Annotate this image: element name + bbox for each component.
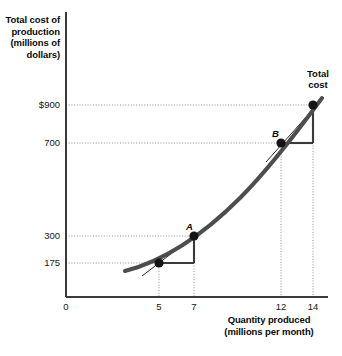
y-tick-label-300: 300 xyxy=(16,230,60,241)
cost-curve-figure: Total cost of production (millions of do… xyxy=(0,0,342,356)
x-tick-label-14: 14 xyxy=(300,301,326,312)
total-cost-curve xyxy=(125,98,322,271)
y-tick-label-175: 175 xyxy=(16,257,60,268)
x-axis-title-line-1: Quantity produced xyxy=(196,314,342,326)
x-tick-label-5: 5 xyxy=(146,301,172,312)
y-axis-title-line-2: production xyxy=(0,26,60,38)
point-label-a: A xyxy=(186,221,193,232)
y-tick-label-700: 700 xyxy=(16,137,60,148)
y-axis-title-line-4: dollars) xyxy=(0,49,60,61)
x-axis-title: Quantity produced (millions per month) xyxy=(196,314,342,337)
curve-label-line-1: Total xyxy=(296,68,340,79)
x-axis-title-line-2: (millions per month) xyxy=(196,326,342,338)
x-tick-label-12: 12 xyxy=(268,301,294,312)
data-points xyxy=(154,100,317,267)
x-tick-label-7: 7 xyxy=(181,301,207,312)
point-b xyxy=(276,138,285,147)
curve-label-total-cost: Total cost xyxy=(296,68,340,90)
point-a xyxy=(189,231,198,240)
x-tick-label-0: 0 xyxy=(53,301,79,312)
y-tick-label-900: $900 xyxy=(16,99,60,110)
y-axis-title-line-1: Total cost of xyxy=(0,14,60,26)
y-axis-title-line-3: (millions of xyxy=(0,37,60,49)
point-label-b: B xyxy=(272,128,279,139)
curve-label-line-2: cost xyxy=(296,79,340,90)
point-14-900 xyxy=(308,100,317,109)
point-5-175 xyxy=(154,258,163,267)
slope-triangle-b xyxy=(281,105,313,143)
y-axis-title: Total cost of production (millions of do… xyxy=(0,14,60,60)
